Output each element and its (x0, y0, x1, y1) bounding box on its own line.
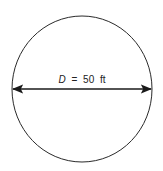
circle-diameter-diagram: D = 50 ft (0, 0, 163, 171)
diameter-variable: D (58, 74, 65, 85)
diameter-value: 50 (83, 74, 95, 85)
equals-sign: = (71, 74, 77, 85)
diameter-unit: ft (100, 74, 106, 85)
diameter-label: D = 50 ft (58, 74, 105, 85)
